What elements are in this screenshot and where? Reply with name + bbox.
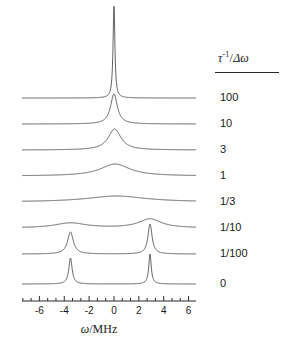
spectrum-trace bbox=[22, 164, 196, 176]
x-axis-label-omega: ω bbox=[81, 322, 89, 336]
x-axis-tick-label: 0 bbox=[104, 305, 124, 316]
legend-divider bbox=[215, 72, 279, 73]
x-axis-label: ω/MHz bbox=[0, 322, 198, 337]
legend-header: τ-1/Δω bbox=[218, 50, 249, 66]
spectrum-trace bbox=[22, 6, 196, 98]
spectrum-trace bbox=[22, 224, 196, 254]
legend-item-1-over-10: 1/10 bbox=[220, 221, 241, 233]
x-axis-tick-label: -6 bbox=[29, 305, 49, 316]
legend-header-exponent: -1 bbox=[223, 50, 230, 59]
legend-item-10: 10 bbox=[220, 117, 232, 129]
x-axis-label-unit: MHz bbox=[93, 322, 118, 336]
legend-item-1-over-3: 1/3 bbox=[220, 195, 235, 207]
trace-group bbox=[22, 6, 196, 284]
legend-item-1-over-100: 1/100 bbox=[220, 247, 248, 259]
spectrum-trace bbox=[22, 129, 196, 150]
spectrum-trace bbox=[22, 94, 196, 124]
legend-item-100: 100 bbox=[220, 91, 238, 103]
spectrum-trace bbox=[22, 196, 196, 201]
legend-item-0: 0 bbox=[220, 277, 226, 289]
legend-column: τ-1/Δω 10010311/31/101/1000 bbox=[198, 0, 301, 351]
x-axis bbox=[22, 296, 196, 301]
x-axis-tick-label: -2 bbox=[79, 305, 99, 316]
legend-item-1: 1 bbox=[220, 169, 226, 181]
legend-item-3: 3 bbox=[220, 143, 226, 155]
spectrum-trace bbox=[22, 219, 196, 228]
x-axis-tick-label: 4 bbox=[154, 305, 174, 316]
x-axis-tick-label: -4 bbox=[54, 305, 74, 316]
spectra-figure: τ-1/Δω 10010311/31/101/1000 ω/MHz -6-4-2… bbox=[0, 0, 301, 351]
spectrum-trace bbox=[22, 254, 196, 284]
legend-header-delta-omega: Δω bbox=[233, 51, 249, 65]
x-axis-tick-label: 2 bbox=[129, 305, 149, 316]
x-axis-tick-label: 6 bbox=[179, 305, 199, 316]
